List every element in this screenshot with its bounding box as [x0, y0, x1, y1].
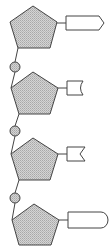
base-v-notch [67, 147, 85, 161]
nucleotide-3 [11, 138, 85, 180]
base-arrow-point [66, 16, 104, 30]
nucleotide-2 [11, 72, 83, 114]
phosphate-circle [10, 193, 20, 203]
dna-strand-diagram [0, 0, 112, 247]
base-rounded-end [68, 212, 108, 228]
backbone-link [15, 180, 19, 193]
sugar-pentagon [11, 138, 58, 180]
sugar-pentagon [11, 72, 58, 114]
nucleotide-1 [10, 6, 104, 48]
backbone-link [12, 203, 15, 220]
sugar-pentagon [10, 6, 57, 48]
nucleotide-4 [12, 204, 108, 245]
backbone-link [15, 114, 19, 126]
phosphate-circle [10, 62, 20, 72]
sugar-pentagon [12, 204, 59, 245]
phosphate-circle [10, 126, 20, 136]
backbone-link [15, 48, 18, 62]
base-concave-notch [67, 81, 83, 95]
